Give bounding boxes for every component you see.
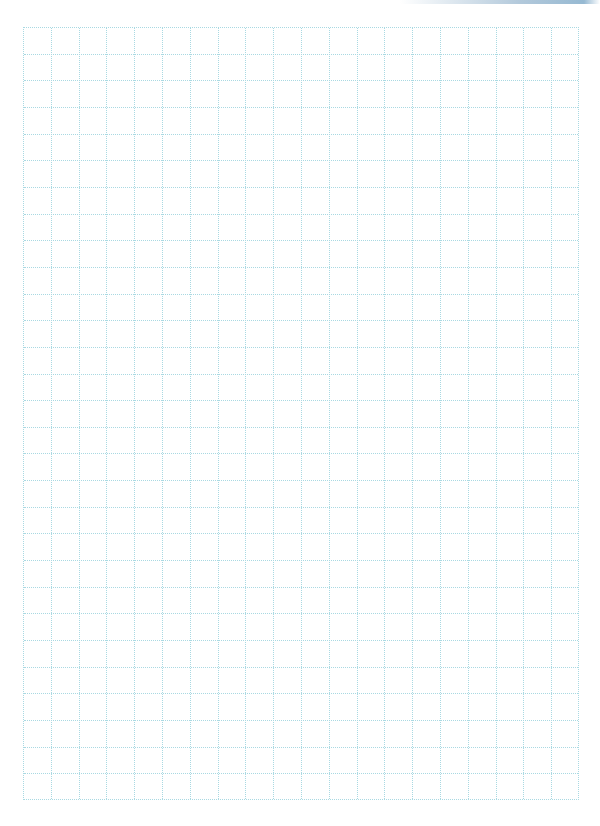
grid-horizontal-line <box>24 427 578 428</box>
grid-vertical-line <box>468 28 469 799</box>
grid-horizontal-line <box>24 187 578 188</box>
grid-horizontal-line <box>24 480 578 481</box>
grid-horizontal-line <box>24 267 578 268</box>
grid-vertical-line <box>523 28 524 799</box>
grid-horizontal-line <box>24 453 578 454</box>
grid-horizontal-line <box>24 560 578 561</box>
grid-horizontal-line <box>24 773 578 774</box>
grid-horizontal-line <box>24 134 578 135</box>
grid-horizontal-line <box>24 240 578 241</box>
grid-vertical-line <box>162 28 163 799</box>
grid-horizontal-line <box>24 400 578 401</box>
grid-horizontal-line <box>24 54 578 55</box>
grid-horizontal-line <box>24 294 578 295</box>
grid-vertical-line <box>412 28 413 799</box>
grid-horizontal-line <box>24 320 578 321</box>
grid-horizontal-line <box>24 80 578 81</box>
grid-horizontal-line <box>24 667 578 668</box>
grid-vertical-line <box>79 28 80 799</box>
grid-vertical-line <box>190 28 191 799</box>
grid-horizontal-line <box>24 107 578 108</box>
grid-vertical-line <box>218 28 219 799</box>
grid-vertical-line <box>245 28 246 799</box>
grid-horizontal-line <box>24 747 578 748</box>
grid-vertical-line <box>496 28 497 799</box>
grid-vertical-line <box>384 28 385 799</box>
grid-horizontal-line <box>24 160 578 161</box>
grid-horizontal-line <box>24 214 578 215</box>
grid-horizontal-line <box>24 640 578 641</box>
grid-vertical-line <box>551 28 552 799</box>
graph-grid <box>23 27 579 800</box>
grid-vertical-line <box>357 28 358 799</box>
grid-vertical-line <box>273 28 274 799</box>
grid-horizontal-line <box>24 347 578 348</box>
grid-vertical-line <box>106 28 107 799</box>
grid-horizontal-line <box>24 613 578 614</box>
scan-edge-shadow <box>400 0 600 4</box>
grid-horizontal-line <box>24 720 578 721</box>
grid-vertical-line <box>329 28 330 799</box>
grid-vertical-line <box>301 28 302 799</box>
grid-vertical-line <box>51 28 52 799</box>
grid-vertical-line <box>440 28 441 799</box>
grid-horizontal-line <box>24 587 578 588</box>
grid-vertical-line <box>134 28 135 799</box>
grid-horizontal-line <box>24 374 578 375</box>
grid-horizontal-line <box>24 693 578 694</box>
grid-horizontal-line <box>24 533 578 534</box>
grid-horizontal-line <box>24 507 578 508</box>
